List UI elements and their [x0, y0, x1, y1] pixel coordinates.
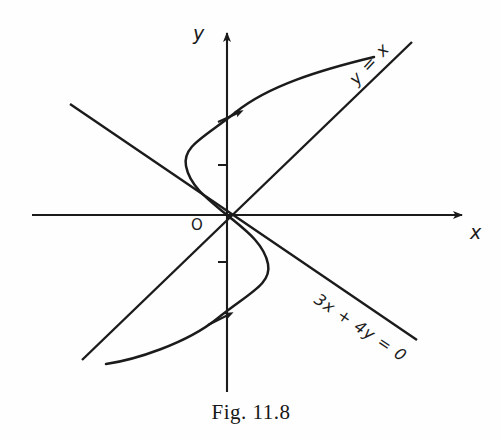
figure-caption: Fig. 11.8: [0, 400, 502, 425]
cubic-curve-lower-branch: [106, 215, 268, 364]
curve-arrow-upper: [218, 112, 240, 122]
origin-label: O: [191, 216, 203, 234]
cubic-curve-upper-branch: [186, 57, 374, 215]
y-axis-label: y: [193, 22, 204, 44]
figure-container: y x O y = x 3x + 4y = 0 Fig. 11.8: [0, 0, 502, 439]
plot-canvas: [0, 0, 502, 439]
axis-group: [32, 33, 462, 392]
line-3x-plus-4y-equals-0: [70, 104, 417, 340]
line-y-equals-x: [82, 42, 412, 360]
x-axis-label: x: [470, 221, 481, 243]
curve-direction-markers: [208, 112, 240, 325]
